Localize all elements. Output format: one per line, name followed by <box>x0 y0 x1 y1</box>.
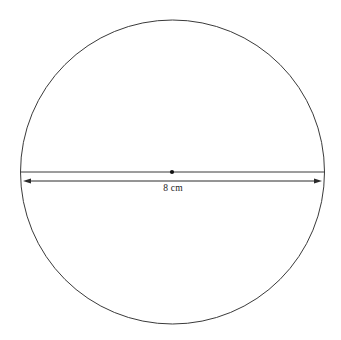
circle-diagram-svg <box>0 0 341 340</box>
center-point-dot <box>170 170 174 174</box>
diameter-dimension-label: 8 cm <box>161 184 185 194</box>
arrowhead-left-icon <box>23 179 31 184</box>
geometry-figure-canvas: 8 cm <box>0 0 341 340</box>
arrowhead-right-icon <box>314 179 322 184</box>
